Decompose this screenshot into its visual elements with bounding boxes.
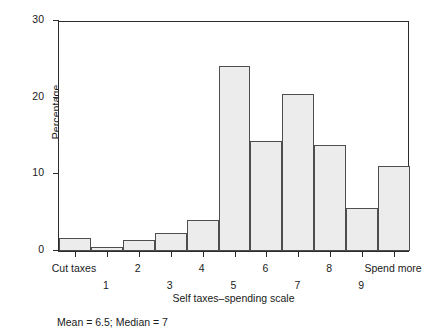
bar-5 — [219, 66, 251, 251]
x-tick-4 — [203, 251, 204, 257]
x-tick-9 — [362, 251, 363, 257]
x-tick-label-5: 5 — [231, 279, 237, 291]
bar-8 — [314, 145, 346, 251]
x-tick-7 — [298, 251, 299, 257]
bar-7 — [282, 94, 314, 251]
x-tick-10 — [394, 251, 395, 257]
y-tick-label-0: 0 — [38, 243, 44, 255]
y-tick-label-30: 30 — [32, 13, 44, 25]
x-tick-label-7: 7 — [294, 279, 300, 291]
y-tick-20: 20 — [53, 97, 59, 98]
x-tick-label-4: 4 — [199, 262, 205, 274]
x-tick-6 — [266, 251, 267, 257]
x-axis-label: Self taxes–spending scale — [58, 292, 409, 304]
bar-2 — [123, 240, 155, 251]
histogram-figure: Percentage 0 10 20 30 Cut taxes123456789… — [0, 0, 436, 335]
bar-9 — [346, 208, 378, 251]
x-tick-label-1: 1 — [103, 279, 109, 291]
bar-6 — [250, 141, 282, 251]
bar-spend-more — [378, 166, 410, 251]
x-tick-1 — [107, 251, 108, 257]
y-tick-label-10: 10 — [32, 166, 44, 178]
x-tick-3 — [171, 251, 172, 257]
bar-4 — [187, 220, 219, 251]
x-tick-label-2: 2 — [135, 262, 141, 274]
x-tick-0 — [75, 251, 76, 257]
chart-footnote: Mean = 6.5; Median = 7 — [57, 316, 168, 328]
x-tick-label-6: 6 — [262, 262, 268, 274]
y-tick-label-20: 20 — [32, 90, 44, 102]
bar-cut-taxes — [59, 238, 91, 251]
bar-3 — [155, 233, 187, 251]
x-tick-label-9: 9 — [358, 279, 364, 291]
plot-area: 0 10 20 30 — [58, 21, 409, 252]
x-tick-2 — [139, 251, 140, 257]
y-tick-30: 30 — [53, 20, 59, 21]
x-tick-label-0: Cut taxes — [52, 262, 96, 274]
x-tick-5 — [235, 251, 236, 257]
x-tick-label-3: 3 — [167, 279, 173, 291]
y-tick-10: 10 — [53, 173, 59, 174]
x-tick-8 — [330, 251, 331, 257]
x-tick-label-8: 8 — [326, 262, 332, 274]
x-tick-label-10: Spend more — [364, 262, 421, 274]
